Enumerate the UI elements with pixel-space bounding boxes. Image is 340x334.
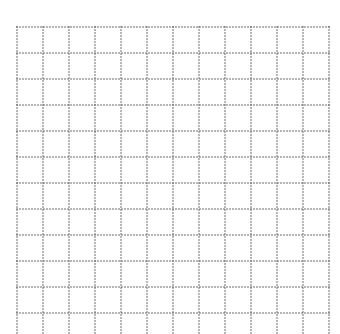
grid-vertical-line [302, 26, 304, 334]
grid-vertical-line [94, 26, 96, 334]
grid-vertical-line [276, 26, 278, 334]
grid-vertical-line [68, 26, 70, 334]
grid-vertical-line [224, 26, 226, 334]
grid-vertical-line [16, 26, 18, 334]
grid-vertical-line [328, 26, 330, 334]
grid-vertical-line [146, 26, 148, 334]
grid-vertical-line [250, 26, 252, 334]
grid-vertical-line [198, 26, 200, 334]
grid-vertical-line [120, 26, 122, 334]
grid-vertical-line [42, 26, 44, 334]
grid-vertical-line [172, 26, 174, 334]
dotted-grid [0, 0, 340, 334]
